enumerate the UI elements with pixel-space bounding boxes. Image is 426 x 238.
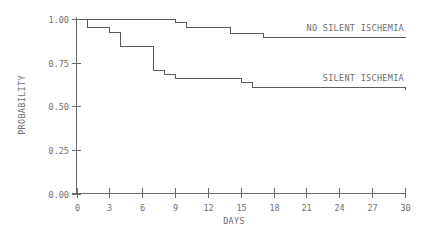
axes xyxy=(72,17,406,194)
kaplan-meier-chart: 0.000.250.500.751.00 036912151821242730 … xyxy=(0,0,426,238)
x-tick-label: 9 xyxy=(173,203,178,213)
y-tick-label: 0.75 xyxy=(49,59,69,69)
y-axis-label: PROBABILITY xyxy=(17,75,27,135)
x-tick-label: 15 xyxy=(236,203,246,213)
x-tick-label: 6 xyxy=(140,203,145,213)
x-axis-label: DAYS xyxy=(223,216,245,226)
x-tick-label: 24 xyxy=(334,203,344,213)
x-tick-label: 27 xyxy=(367,203,377,213)
y-tick-label: 0.25 xyxy=(49,146,69,156)
y-tick-label: 0.00 xyxy=(49,190,69,200)
x-tick-label: 30 xyxy=(400,203,410,213)
x-tick-label: 3 xyxy=(107,203,112,213)
x-tick-label: 18 xyxy=(269,203,279,213)
x-tick-label: 12 xyxy=(203,203,213,213)
label-no-silent-ischemia: NO SILENT ISCHEMIA xyxy=(306,23,404,33)
x-tick-label: 21 xyxy=(301,203,311,213)
curve-labels: NO SILENT ISCHEMIASILENT ISCHEMIA xyxy=(306,23,404,83)
y-tick-label: 1.00 xyxy=(49,15,69,25)
x-tick-label: 0 xyxy=(75,203,80,213)
y-tick-label: 0.50 xyxy=(49,102,69,112)
label-silent-ischemia: SILENT ISCHEMIA xyxy=(323,73,404,83)
x-ticks: 036912151821242730 xyxy=(75,188,411,213)
